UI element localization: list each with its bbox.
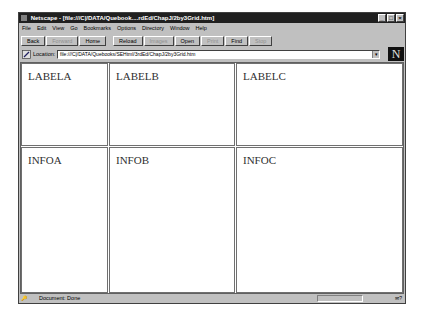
back-button[interactable]: Back — [21, 36, 45, 46]
location-label: Location: — [33, 48, 55, 61]
menu-options[interactable]: Options — [117, 23, 136, 33]
frame-info-a: INFOA — [21, 147, 108, 293]
reload-button[interactable]: Reload — [113, 36, 142, 46]
menu-go[interactable]: Go — [70, 23, 77, 33]
stop-button[interactable]: Stop — [249, 36, 272, 46]
frame-info-a-text: INFOA — [28, 154, 62, 166]
menu-bar: File Edit View Go Bookmarks Options Dire… — [19, 23, 405, 33]
print-button[interactable]: Print — [201, 36, 224, 46]
location-dropdown-button[interactable]: ▾ — [372, 51, 380, 58]
menu-view[interactable]: View — [52, 23, 64, 33]
menu-help[interactable]: Help — [196, 23, 207, 33]
bookmark-link-icon[interactable] — [22, 50, 31, 59]
frame-label-c: LABELC — [236, 63, 403, 146]
home-button[interactable]: Home — [79, 36, 106, 46]
menu-bookmarks[interactable]: Bookmarks — [84, 23, 112, 33]
menu-directory[interactable]: Directory — [142, 23, 164, 33]
maximize-button[interactable]: □ — [387, 14, 395, 22]
mail-icon[interactable]: ✉? — [395, 294, 402, 303]
progress-indicator — [317, 295, 363, 302]
toolbar: Back Forward Home Reload Images Open Pri… — [21, 35, 272, 46]
minimize-button[interactable]: _ — [378, 14, 386, 22]
frame-label-a: LABELA — [21, 63, 108, 146]
location-url: file:///C|/DATA/Quebooks/SEHtml/3rdEd/Ch… — [60, 51, 195, 57]
forward-button[interactable]: Forward — [46, 36, 78, 46]
status-text: Document: Done — [39, 294, 80, 303]
frame-label-c-text: LABELC — [243, 70, 286, 82]
status-bar: 🔑 Document: Done ✉? — [19, 294, 405, 303]
frame-label-b-text: LABELB — [116, 70, 159, 82]
frame-label-a-text: LABELA — [28, 70, 71, 82]
menu-edit[interactable]: Edit — [37, 23, 46, 33]
menu-file[interactable]: File — [22, 23, 31, 33]
window-title: Netscape - [file:///C|/DATA/Quebook....r… — [31, 15, 214, 21]
frameset: LABELA LABELB LABELC INFOA INFOB INFOC — [20, 62, 404, 294]
find-button[interactable]: Find — [225, 36, 248, 46]
open-button[interactable]: Open — [175, 36, 200, 46]
netscape-app-icon — [21, 15, 27, 21]
frame-info-c: INFOC — [236, 147, 403, 293]
browser-window: Netscape - [file:///C|/DATA/Quebook....r… — [18, 12, 406, 304]
location-bar: Location: file:///C|/DATA/Quebooks/SEHtm… — [19, 48, 405, 61]
frame-info-b-text: INFOB — [116, 154, 149, 166]
frame-info-c-text: INFOC — [243, 154, 276, 166]
netscape-logo: N — [388, 47, 404, 61]
menu-window[interactable]: Window — [170, 23, 190, 33]
title-bar: Netscape - [file:///C|/DATA/Quebook....r… — [19, 13, 405, 23]
frame-info-b: INFOB — [109, 147, 235, 293]
frame-label-b: LABELB — [109, 63, 235, 146]
close-button[interactable]: × — [396, 14, 404, 22]
images-button[interactable]: Images — [144, 36, 174, 46]
key-icon[interactable]: 🔑 — [21, 295, 35, 302]
location-input[interactable]: file:///C|/DATA/Quebooks/SEHtml/3rdEd/Ch… — [57, 50, 380, 59]
